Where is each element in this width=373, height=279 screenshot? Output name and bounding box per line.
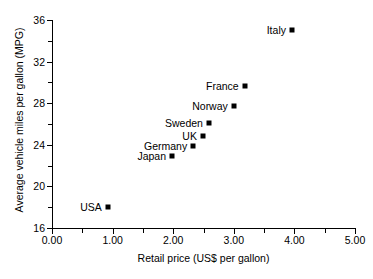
y-tick — [47, 103, 52, 104]
y-tick — [47, 145, 52, 146]
y-tick — [48, 166, 52, 167]
data-point-marker — [206, 120, 211, 125]
data-point-label: Sweden — [165, 118, 203, 129]
y-tick-label: 24 — [33, 140, 45, 151]
y-tick — [47, 186, 52, 187]
x-tick — [82, 229, 83, 233]
y-tick-label: 20 — [33, 181, 45, 192]
x-tick-label: 2.00 — [163, 235, 183, 246]
plot-area: 162024283236 0.001.002.003.004.005.00 US… — [52, 20, 355, 228]
data-point-label: Japan — [137, 151, 166, 162]
data-point-marker — [191, 143, 196, 148]
y-axis-line — [52, 20, 53, 229]
x-axis-label: Retail price (US$ per gallon) — [52, 252, 355, 264]
y-tick-label: 28 — [33, 98, 45, 109]
data-point-label: Italy — [267, 25, 286, 36]
y-tick-label: 16 — [33, 223, 45, 234]
x-tick — [264, 229, 265, 233]
data-point-label: Germany — [144, 141, 187, 152]
x-tick-label: 0.00 — [42, 235, 62, 246]
y-tick — [47, 62, 52, 63]
data-point-marker — [200, 134, 205, 139]
x-tick — [204, 229, 205, 233]
data-point-marker — [105, 205, 110, 210]
scatter-chart: Average vehicle miles per gallon (MPG) 1… — [0, 0, 373, 279]
y-tick — [48, 41, 52, 42]
x-tick-label: 3.00 — [224, 235, 244, 246]
x-tick-label: 4.00 — [284, 235, 304, 246]
y-tick-label: 36 — [33, 15, 45, 26]
y-tick — [47, 20, 52, 21]
x-tick-label: 1.00 — [102, 235, 122, 246]
data-point-marker — [242, 83, 247, 88]
data-point-marker — [169, 154, 174, 159]
data-point-label: France — [206, 80, 239, 91]
data-point-marker — [289, 28, 294, 33]
x-tick — [325, 229, 326, 233]
data-point-label: USA — [80, 202, 102, 213]
y-tick — [48, 82, 52, 83]
y-axis-label: Average vehicle miles per gallon (MPG) — [11, 4, 27, 236]
data-point-marker — [231, 104, 236, 109]
y-tick — [48, 124, 52, 125]
y-tick — [48, 207, 52, 208]
x-tick — [143, 229, 144, 233]
data-point-label: UK — [182, 131, 197, 142]
y-tick-label: 32 — [33, 56, 45, 67]
data-point-label: Norway — [192, 101, 228, 112]
x-tick-label: 5.00 — [345, 235, 365, 246]
